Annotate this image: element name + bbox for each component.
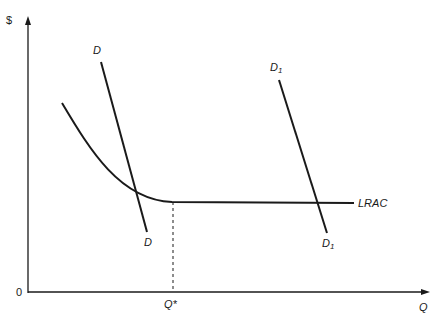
d1-top-subscript: 1 bbox=[278, 66, 282, 75]
origin-label: 0 bbox=[16, 287, 22, 298]
y-axis-label: $ bbox=[6, 15, 12, 26]
demand-d-line bbox=[101, 62, 147, 232]
q-star-label: Q* bbox=[164, 299, 177, 310]
demand-d1-bottom-label: D1 bbox=[322, 238, 334, 251]
x-axis-label: Q bbox=[419, 302, 428, 313]
demand-d1-top-label: D1 bbox=[270, 62, 282, 75]
x-axis-arrow-icon bbox=[421, 289, 430, 295]
lrac-curve bbox=[62, 103, 354, 203]
y-axis-arrow-icon bbox=[25, 16, 31, 25]
d1-bottom-subscript: 1 bbox=[330, 242, 334, 251]
d1-bottom-base: D bbox=[322, 237, 330, 249]
diagram-svg bbox=[0, 0, 442, 320]
demand-d-top-label: D bbox=[93, 45, 101, 56]
demand-d-bottom-label: D bbox=[144, 237, 152, 248]
lrac-label: LRAC bbox=[358, 198, 387, 209]
demand-d1-line bbox=[279, 80, 327, 233]
diagram-canvas: $ 0 Q Q* LRAC D D D1 D1 bbox=[0, 0, 442, 320]
d1-top-base: D bbox=[270, 61, 278, 73]
